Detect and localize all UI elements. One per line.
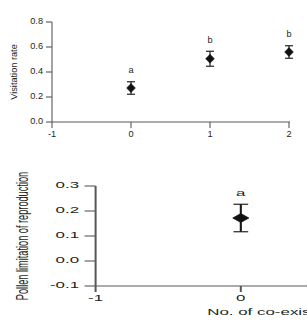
y-axis-title-bottom: Pollen limitation of reproduction [13, 172, 32, 300]
data-point-top-0: a [127, 65, 136, 94]
y-tick-label-top-1: 0.6 [30, 41, 43, 51]
marker-bottom-0 [233, 214, 249, 223]
figure-container: 0.8 0.6 0.4 0.2 0.0 -1 0 1 2 Visitation … [0, 0, 307, 327]
y-tick-label-top-4: 0.0 [30, 116, 43, 126]
data-series-top: a b b [127, 29, 294, 94]
y-tick-label-bottom-1: 0.2 [56, 205, 80, 215]
y-axis-title-top: Visitation rate [9, 44, 19, 100]
data-point-bottom-0: a [233, 188, 249, 232]
y-tick-label-top-3: 0.2 [30, 91, 43, 101]
y-axis-group-top: 0.8 0.6 0.4 0.2 0.0 [30, 16, 52, 126]
pollen-limitation-plot: 0.3 0.2 0.1 0.0 -0.1 -1 0 1 2 [0, 160, 307, 327]
data-series-bottom: a a b [233, 188, 307, 280]
marker-top-1 [206, 54, 215, 63]
y-tick-label-top-0: 0.8 [30, 16, 43, 26]
marker-top-2 [285, 48, 294, 57]
panel-visitation-rate: 0.8 0.6 0.4 0.2 0.0 -1 0 1 2 Visitation … [0, 0, 307, 160]
x-axis-group-top: -1 0 1 2 [48, 122, 292, 139]
y-tick-label-bottom-0: 0.3 [56, 180, 80, 190]
sig-label-top-0: a [128, 65, 134, 75]
marker-top-0 [127, 84, 136, 93]
sig-label-bottom-0: a [236, 188, 246, 198]
x-axis-title: No. of co-existing congeners [207, 307, 307, 317]
visitation-rate-plot: 0.8 0.6 0.4 0.2 0.0 -1 0 1 2 Visitation … [0, 0, 307, 160]
y-tick-label-top-2: 0.4 [30, 66, 43, 76]
sig-label-top-1: b [207, 35, 212, 45]
y-axis-group-bottom: 0.3 0.2 0.1 0.0 -0.1 [50, 180, 96, 290]
x-tick-label-bottom-0: -1 [88, 293, 103, 303]
x-tick-label-top-2: 1 [207, 129, 212, 139]
y-tick-label-bottom-4: -0.1 [50, 280, 79, 290]
x-tick-label-bottom-1: 0 [236, 293, 246, 303]
sig-label-top-2: b [286, 29, 291, 39]
panel-pollen-limitation: 0.3 0.2 0.1 0.0 -0.1 -1 0 1 2 [0, 160, 307, 327]
x-tick-label-top-3: 2 [286, 129, 291, 139]
data-point-top-1: b [206, 35, 215, 66]
y-tick-label-bottom-3: 0.0 [56, 255, 80, 265]
x-tick-label-top-0: -1 [48, 129, 56, 139]
data-point-top-2: b [285, 29, 294, 58]
y-tick-label-bottom-2: 0.1 [56, 230, 80, 240]
x-tick-label-top-1: 0 [128, 129, 133, 139]
x-axis-group-bottom: -1 0 1 2 [88, 286, 307, 304]
